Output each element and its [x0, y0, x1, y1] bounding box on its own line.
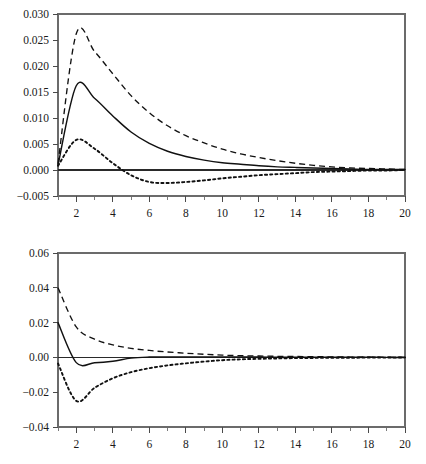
y-axis-tick-label: 0.025	[23, 34, 49, 46]
y-axis-tick-label: 0.06	[29, 247, 49, 259]
chart-panel-bottom: −0.04−0.020.000.020.040.0624681012141618…	[0, 232, 426, 464]
x-axis-tick-label: 4	[110, 438, 116, 450]
y-axis-tick-label: 0.005	[23, 138, 49, 150]
x-axis-tick-label: 4	[110, 207, 116, 219]
x-axis-tick-label: 8	[183, 438, 189, 450]
impulse-response-figure: −0.0050.0000.0050.0100.0150.0200.0250.03…	[0, 0, 426, 464]
y-axis-tick-label: −0.005	[17, 190, 50, 202]
y-axis-tick-label: 0.030	[23, 8, 49, 20]
y-axis-tick-label: 0.000	[23, 164, 49, 176]
x-axis-tick-label: 10	[217, 438, 229, 450]
x-axis-tick-label: 6	[146, 207, 152, 219]
x-axis-tick-label: 16	[326, 438, 338, 450]
chart-svg-top: −0.0050.0000.0050.0100.0150.0200.0250.03…	[0, 0, 426, 232]
x-axis-tick-label: 2	[73, 207, 79, 219]
x-axis-tick-label: 10	[217, 207, 229, 219]
x-axis-tick-label: 18	[363, 438, 375, 450]
series-upper-confidence-band	[58, 28, 405, 170]
y-axis-tick-label: −0.02	[22, 386, 49, 398]
plot-frame	[58, 253, 405, 427]
y-axis-tick-label: 0.015	[23, 86, 49, 98]
series-impulse-response	[58, 82, 405, 169]
x-axis-tick-label: 12	[253, 438, 265, 450]
series-lower-confidence-band	[58, 357, 405, 401]
y-axis-tick-label: 0.00	[29, 351, 49, 363]
x-axis-tick-label: 18	[363, 207, 375, 219]
y-axis-tick-label: 0.04	[29, 282, 49, 294]
series-lower-confidence-band	[58, 139, 405, 183]
x-axis-tick-label: 14	[290, 207, 302, 219]
x-axis-tick-label: 6	[146, 438, 152, 450]
chart-panel-top: −0.0050.0000.0050.0100.0150.0200.0250.03…	[0, 0, 426, 232]
y-axis-tick-label: 0.02	[29, 317, 49, 329]
series-upper-confidence-band	[58, 288, 405, 357]
x-axis-tick-label: 12	[253, 207, 265, 219]
x-axis-tick-label: 8	[183, 207, 189, 219]
x-axis-tick-label: 14	[290, 438, 302, 450]
chart-svg-bottom: −0.04−0.020.000.020.040.0624681012141618…	[0, 232, 426, 464]
y-axis-tick-label: −0.04	[22, 421, 49, 433]
x-axis-tick-label: 16	[326, 207, 338, 219]
y-axis-tick-label: 0.020	[23, 60, 49, 72]
y-axis-tick-label: 0.010	[23, 112, 49, 124]
x-axis-tick-label: 20	[399, 207, 411, 219]
x-axis-tick-label: 20	[399, 438, 411, 450]
x-axis-tick-label: 2	[73, 438, 79, 450]
